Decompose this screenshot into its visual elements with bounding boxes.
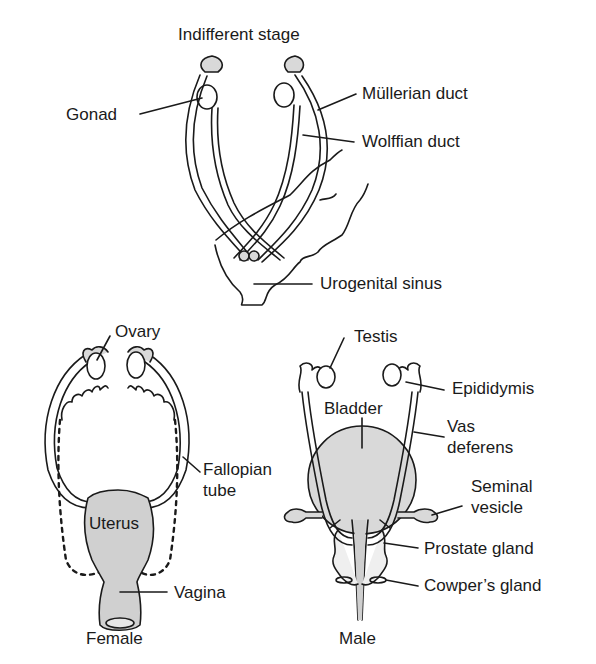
seminal-vesicle-leader: [432, 506, 462, 515]
left-ovary: [87, 353, 105, 379]
gonad-leader: [140, 98, 202, 114]
testis-leader: [330, 338, 344, 368]
vas-deferens-leader: [414, 432, 444, 437]
uterus-vagina-shape: [85, 490, 154, 630]
epididymis-leader: [406, 382, 444, 390]
diagram-title: Indifferent stage: [178, 25, 300, 44]
label-prostate-gland: Prostate gland: [424, 539, 534, 558]
label-wolffian-duct: Wolffian duct: [362, 132, 460, 151]
prostate-leader: [384, 543, 418, 548]
right-gonad-cap: [285, 56, 304, 72]
cowpers-leader: [386, 580, 418, 586]
left-testis: [317, 366, 335, 388]
left-gonad-cap: [201, 56, 222, 72]
left-seminal-vesicle: [285, 509, 322, 523]
caption-female: Female: [86, 629, 143, 648]
label-seminal-vesicle-1: Seminal: [471, 477, 532, 496]
label-seminal-vesicle-2: vesicle: [471, 498, 523, 517]
label-gonad: Gonad: [66, 105, 117, 124]
label-uterus: Uterus: [89, 514, 139, 533]
indifferent-stage-figure: [140, 56, 368, 305]
right-testis: [383, 364, 401, 386]
label-mullerian-duct: Müllerian duct: [362, 84, 468, 103]
label-vas-deferens-2: deferens: [447, 438, 513, 457]
right-gonad: [274, 83, 294, 107]
label-testis: Testis: [354, 327, 397, 346]
label-fallopian-tube-1: Fallopian: [203, 460, 272, 479]
wolffian-leader: [303, 135, 354, 142]
label-vagina: Vagina: [174, 583, 226, 602]
label-epididymis: Epididymis: [452, 379, 534, 398]
label-fallopian-tube-2: tube: [203, 481, 236, 500]
label-urogenital-sinus: Urogenital sinus: [320, 274, 442, 293]
reproductive-development-diagram: [0, 0, 596, 664]
caption-male: Male: [339, 629, 376, 648]
label-ovary: Ovary: [115, 322, 160, 341]
right-ovary: [127, 352, 145, 378]
label-cowpers-gland: Cowper’s gland: [424, 576, 542, 595]
label-bladder: Bladder: [324, 399, 383, 418]
label-vas-deferens-1: Vas: [447, 417, 475, 436]
mullerian-leader: [318, 94, 356, 110]
